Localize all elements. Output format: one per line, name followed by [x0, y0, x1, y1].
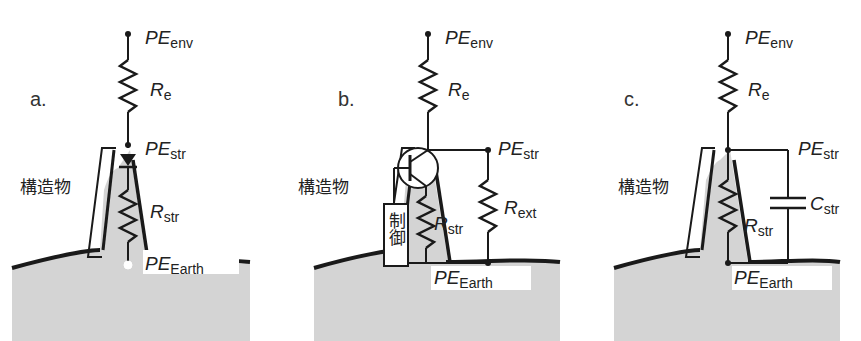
- panel-letter: a.: [30, 88, 47, 110]
- node-pe-env: [425, 31, 431, 37]
- label-re: Re: [748, 79, 770, 103]
- label-pe-str: PEstr: [798, 138, 839, 162]
- label-rstr: Rstr: [434, 213, 464, 237]
- structure-label: 構造物: [20, 177, 71, 197]
- label-cstr: Cstr: [810, 193, 840, 217]
- node-pe-earth: [124, 261, 132, 269]
- label-pe-str: PEstr: [498, 138, 539, 162]
- circuit-diagram-b: 制御 b. 構造物 PEenv Re PEstr Rstr Rext PEEar…: [290, 0, 580, 341]
- node-pe-env: [725, 31, 731, 37]
- ground-surface-right: [748, 260, 840, 262]
- label-rstr: Rstr: [744, 215, 774, 239]
- panel-letter: b.: [338, 88, 355, 110]
- label-pe-env: PEenv: [745, 27, 793, 51]
- structure-label: 構造物: [298, 177, 349, 197]
- panel-letter: c.: [624, 88, 640, 110]
- node-pe-str: [125, 142, 131, 148]
- label-pe-env: PEenv: [145, 27, 193, 51]
- label-pe-env: PEenv: [445, 27, 493, 51]
- label-rstr: Rstr: [150, 201, 180, 225]
- ground-surface-right: [446, 260, 560, 262]
- label-pe-str: PEstr: [145, 138, 186, 162]
- label-re: Re: [448, 79, 470, 103]
- resistor-re: [120, 60, 136, 112]
- control-label: 制御: [386, 212, 406, 246]
- panel-a: a. 構造物 PEenv Re PEstr Rstr PEEarth: [0, 0, 290, 341]
- circuit-diagram-c: c. 構造物 PEenv Re PEstr Rstr Cstr PEEarth: [580, 0, 861, 341]
- resistor-re: [720, 60, 736, 112]
- structure-label: 構造物: [618, 177, 669, 197]
- label-re: Re: [150, 79, 172, 103]
- node-pe-env: [125, 31, 131, 37]
- panel-c: c. 構造物 PEenv Re PEstr Rstr Cstr PEEarth: [580, 0, 861, 341]
- resistor-re: [420, 60, 436, 112]
- panel-b: 制御 b. 構造物 PEenv Re PEstr Rstr Rext PEEar…: [290, 0, 580, 341]
- label-rext: Rext: [504, 197, 537, 221]
- circuit-diagram-a: a. 構造物 PEenv Re PEstr Rstr PEEarth: [0, 0, 290, 341]
- resistor-rext: [480, 180, 496, 232]
